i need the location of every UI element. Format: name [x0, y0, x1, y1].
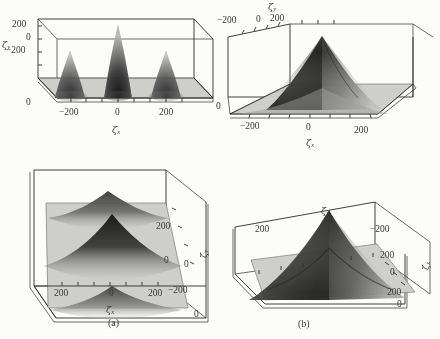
- bottom-right-x-tick-200b: 200: [387, 288, 401, 298]
- bottom-right-y-axis-label: ζy: [321, 206, 329, 217]
- top-right-x-tick-200: 200: [354, 126, 368, 136]
- bottom-left-y-tick-0: 0: [164, 256, 169, 266]
- bottom-right-origin-tick: 0: [397, 300, 402, 310]
- top-left-origin-tick: 0: [26, 98, 31, 108]
- top-right-origin-tick: 0: [216, 102, 221, 112]
- caption-a: (a): [108, 318, 119, 328]
- bottom-right-y-tick-neg200: −200: [370, 225, 390, 235]
- top-left-x-axis-label: ζx: [112, 125, 120, 136]
- top-left-x-tick-0: 0: [115, 108, 120, 118]
- panel-single-peak-top-view: ζy 200 0 −200 200 0 200 0 ζx (b): [225, 182, 440, 337]
- bottom-left-x-tick-0: 0: [109, 289, 114, 299]
- top-left-y-tick-0: 0: [26, 33, 31, 43]
- panel-single-peak-front-view: ζy −200 0 200 0 −200 0 200 ζx: [218, 2, 433, 150]
- bottom-right-x-axis-label: ζx: [421, 262, 432, 270]
- panel-three-peak-front-view: ζy 200 0 −200 0 −200 0 200 ζx: [14, 6, 219, 146]
- bottom-left-y-axis-label: ζy: [199, 250, 210, 258]
- bottom-left-x-tick-left200: 200: [54, 289, 68, 299]
- top-left-y-tick-200: 200: [12, 20, 26, 30]
- top-left-x-tick-200: 200: [159, 108, 173, 118]
- figure-root: ζy 200 0 −200 0 −200 0 200 ζx: [0, 0, 440, 339]
- caption-b: (b): [298, 319, 310, 329]
- bottom-left-y-tick-neg200: −200: [168, 286, 188, 296]
- top-right-x-axis-label: ζx: [306, 138, 314, 149]
- bottom-right-y-tick-0: 0: [325, 226, 330, 236]
- top-left-y-tick-neg200: −200: [6, 46, 26, 56]
- bottom-left-x-axis-label: ζx: [106, 305, 114, 316]
- top-right-y-axis-label: ζy: [268, 2, 276, 13]
- plot-box-bottom-right: [225, 182, 440, 337]
- bottom-right-x-tick-0: 0: [390, 268, 395, 278]
- top-right-x-tick-0: 0: [306, 123, 311, 133]
- top-right-y-tick-neg200: −200: [217, 16, 237, 26]
- top-right-y-tick-200: 200: [270, 14, 284, 24]
- bottom-left-x-tick-right200: 200: [148, 289, 162, 299]
- bottom-right-y-tick-200: 200: [255, 225, 269, 235]
- top-right-x-tick-neg200: −200: [240, 122, 260, 132]
- panel-three-peak-top-view: 200 0 −200 0 0 ζy 200 0 200 ζx (a): [16, 158, 226, 333]
- bottom-right-x-tick-200a: 200: [380, 251, 394, 261]
- plot-box-bottom-left: [16, 158, 226, 333]
- bottom-left-y-tick-200: 200: [156, 222, 170, 232]
- top-right-y-tick-0: 0: [256, 15, 261, 25]
- bottom-left-origin-tick-lower: 0: [194, 310, 199, 320]
- bottom-left-origin-tick-upper: 0: [184, 260, 189, 270]
- top-left-x-tick-neg200: −200: [59, 108, 79, 118]
